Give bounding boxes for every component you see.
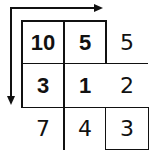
box-right-border (148, 107, 149, 150)
cell-r2-c3: 2 (106, 64, 148, 107)
cell-r1-c3: 5 (106, 21, 148, 64)
vertical-arrow-icon (7, 7, 15, 105)
cell-r2-c2: 1 (64, 64, 106, 107)
cell-r3-c1: 7 (22, 107, 64, 150)
horizontal-arrow-icon (11, 4, 103, 12)
cell-r2-c1: 3 (22, 64, 64, 107)
cell-r1-c1: 10 (22, 21, 64, 64)
cell-r1-c2: 5 (64, 21, 106, 64)
cell-r3-c3: 3 (106, 107, 148, 150)
cell-r3-c2: 4 (64, 107, 106, 150)
